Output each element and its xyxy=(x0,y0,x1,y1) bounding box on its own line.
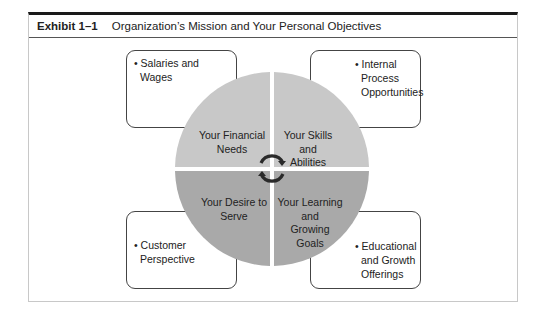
quadrant-label-financial: Your Financial Needs xyxy=(196,129,268,156)
label-line: and xyxy=(276,143,340,157)
label-line: Your Desire to xyxy=(196,196,272,210)
quadrant-circle xyxy=(0,0,544,319)
quadrant-label-desire: Your Desire to Serve xyxy=(196,196,272,223)
label-line: Your Financial xyxy=(196,129,268,143)
quadrant-label-skills: Your Skills and Abilities xyxy=(276,129,340,170)
label-line: Needs xyxy=(196,143,268,157)
label-line: Goals xyxy=(274,237,346,251)
label-line: and xyxy=(274,210,346,224)
quadrant-label-learning: Your Learning and Growing Goals xyxy=(274,196,346,250)
label-line: Your Skills xyxy=(276,129,340,143)
label-line: Abilities xyxy=(276,156,340,170)
label-line: Serve xyxy=(196,210,272,224)
label-line: Growing xyxy=(274,223,346,237)
label-line: Your Learning xyxy=(274,196,346,210)
